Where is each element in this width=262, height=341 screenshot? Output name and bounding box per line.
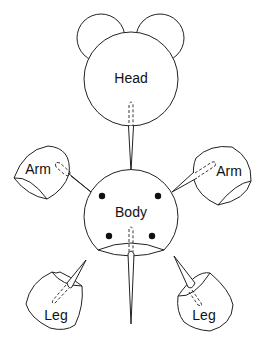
leg-right-label: Leg xyxy=(192,307,215,323)
arm-hole-left xyxy=(99,193,105,199)
leg-hole-right xyxy=(149,233,155,239)
leg-right-part: Leg xyxy=(174,256,233,331)
arm-left-peg xyxy=(68,173,91,192)
body-peg xyxy=(128,251,134,324)
arm-left-part: Arm xyxy=(14,146,91,199)
leg-hole-left xyxy=(106,233,112,239)
leg-left-part: Leg xyxy=(26,260,86,329)
arm-right-label: Arm xyxy=(216,163,242,179)
head-part: Head xyxy=(77,14,184,172)
leg-left-label: Leg xyxy=(44,307,67,323)
arm-hole-right xyxy=(155,193,161,199)
leg-right-peg xyxy=(174,256,195,288)
head-peg xyxy=(129,126,134,172)
assembly-diagram: Head Body Arm Arm Leg xyxy=(0,0,262,341)
body-part: Body xyxy=(84,170,178,324)
arm-left-label: Arm xyxy=(25,161,51,177)
head-label: Head xyxy=(114,70,147,86)
arm-right-peg xyxy=(172,172,197,192)
body-label: Body xyxy=(115,204,147,220)
arm-right-part: Arm xyxy=(172,146,251,205)
